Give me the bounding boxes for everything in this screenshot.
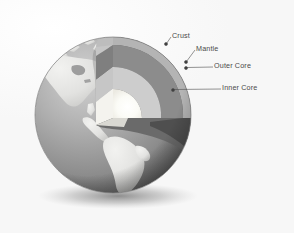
earth-cutaway-figure: Crust Mantle Outer Core Inner Core [0, 0, 294, 233]
leader-line-crust [167, 37, 172, 44]
earth-illustration [0, 0, 294, 233]
leader-line-outer-core [187, 67, 213, 68]
leader-dot-inner-core [172, 89, 175, 92]
leader-dot-crust [165, 43, 168, 46]
leader-line-mantle [187, 50, 196, 62]
leader-dot-mantle [185, 61, 188, 64]
leader-dot-outer-core [185, 67, 188, 70]
label-outer-core: Outer Core [214, 62, 251, 69]
label-inner-core: Inner Core [222, 84, 257, 91]
figure-canvas: Crust Mantle Outer Core Inner Core [0, 0, 294, 233]
label-crust: Crust [172, 32, 190, 39]
label-mantle: Mantle [196, 45, 218, 52]
